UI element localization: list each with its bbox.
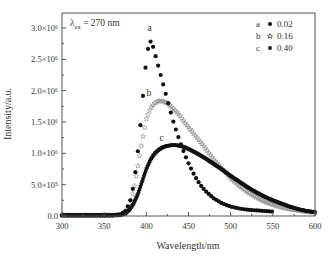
y-axis: 0.05.0×10⁵1.0×10⁶1.5×10⁶2.0×10⁶2.5×10⁶3.… [31, 23, 66, 221]
x-tick-label: 600 [309, 221, 322, 231]
y-tick-label: 2.0×10⁶ [31, 86, 58, 96]
series-label-c: c [159, 133, 163, 143]
series-b [60, 98, 318, 217]
x-tick-label: 350 [98, 221, 111, 231]
x-tick-label: 400 [140, 221, 153, 231]
legend-key: a [256, 19, 260, 29]
excitation-annotation: λex = 270 nm [70, 18, 120, 30]
legend-marker-icon [268, 22, 272, 26]
x-axis-label: Wavelength/nm [156, 240, 219, 251]
series-label-b: b [146, 88, 151, 98]
legend-value: 0.40 [277, 43, 293, 53]
legend-key: c [256, 43, 260, 53]
y-tick-label: 0.0 [47, 211, 58, 221]
x-tick-label: 450 [182, 221, 195, 231]
x-tick-label: 550 [266, 221, 279, 231]
y-tick-label: 1.0×10⁶ [31, 148, 58, 158]
legend-value: 0.16 [277, 31, 293, 41]
y-tick-label: 5.0×10⁵ [31, 180, 58, 190]
chart-canvas: 0.05.0×10⁵1.0×10⁶1.5×10⁶2.0×10⁶2.5×10⁶3.… [0, 0, 335, 261]
legend-item-a: a0.02 [256, 19, 293, 29]
x-tick-label: 300 [56, 221, 69, 231]
y-tick-label: 1.5×10⁶ [31, 117, 58, 127]
y-tick-label: 3.0×10⁶ [31, 23, 58, 33]
x-tick-label: 500 [224, 221, 237, 231]
legend-marker-icon [268, 46, 271, 49]
legend-item-c: c0.40 [256, 43, 293, 53]
legend-item-b: b0.16 [256, 31, 293, 41]
legend-marker-icon [268, 33, 273, 38]
series-label-a: a [148, 23, 153, 33]
y-tick-label: 2.5×10⁶ [31, 54, 58, 64]
legend: a0.02b0.16c0.40 [256, 19, 293, 53]
legend-key: b [256, 31, 261, 41]
photoluminescence-chart: 0.05.0×10⁵1.0×10⁶1.5×10⁶2.0×10⁶2.5×10⁶3.… [0, 0, 335, 261]
legend-value: 0.02 [277, 19, 293, 29]
y-axis-label: Intensity/a.u. [2, 88, 13, 140]
series-a [60, 39, 274, 217]
plot-series [60, 39, 318, 217]
